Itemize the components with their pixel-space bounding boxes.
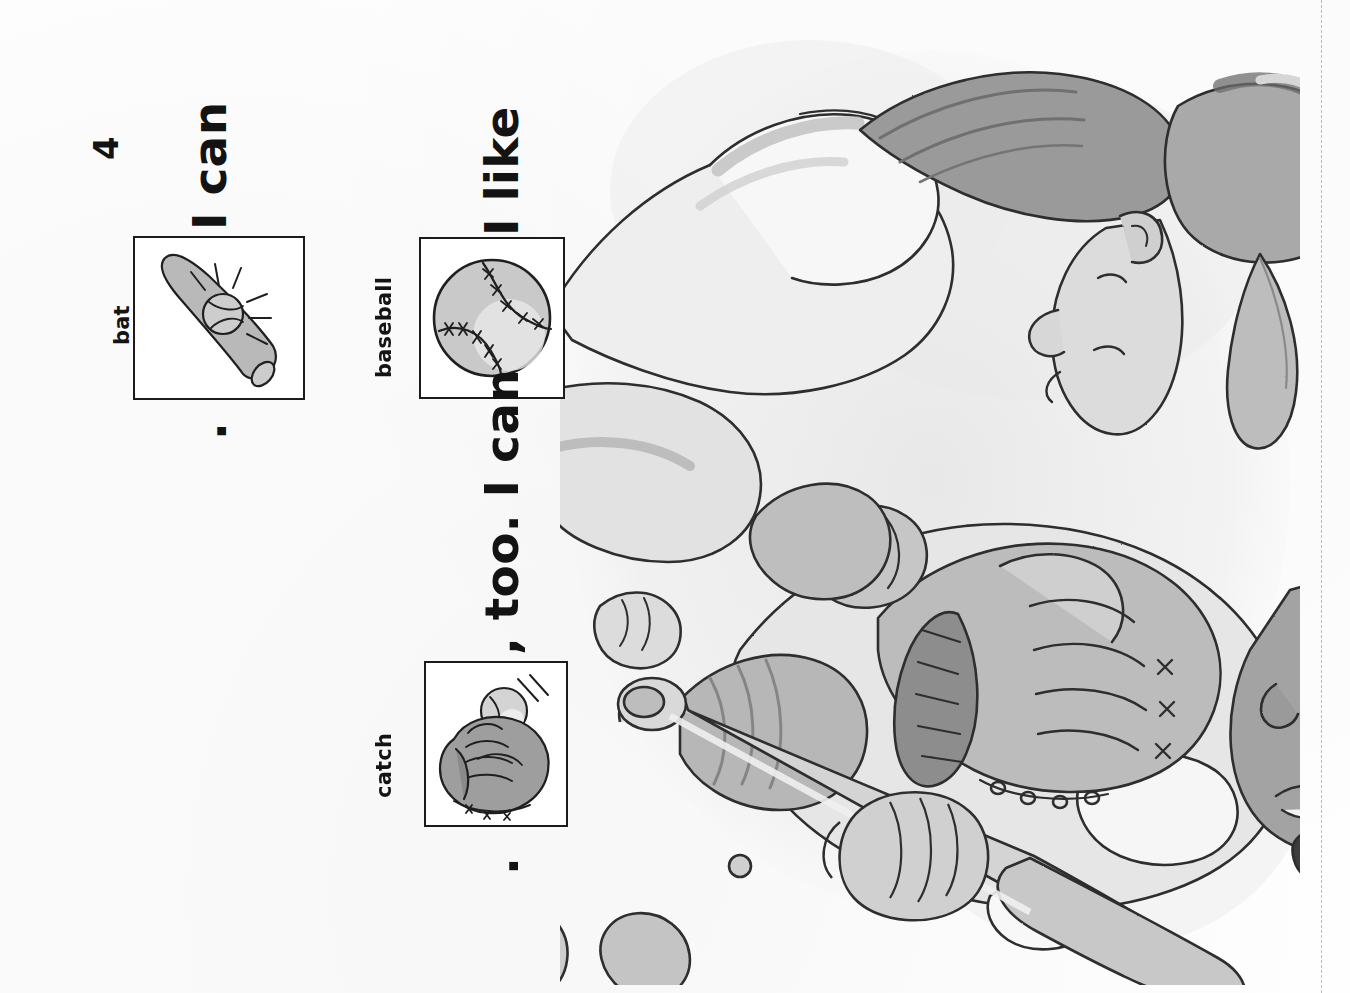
picture-label-catch-text: catch <box>372 733 396 798</box>
picture-label-bat: bat <box>110 305 134 345</box>
picture-label-baseball-text: baseball <box>372 277 396 378</box>
text-run-period-left: . <box>182 422 237 440</box>
text-run-period-right: . <box>474 857 529 875</box>
picture-label-catch: catch <box>372 733 396 798</box>
picture-box-bat[interactable] <box>133 236 305 400</box>
baseball-icon <box>434 260 551 376</box>
picture-label-baseball: baseball <box>372 277 396 378</box>
sentence-1-text-i-like: I like <box>478 106 525 236</box>
sentence-1-period: . <box>478 857 525 875</box>
book-page: 4 I can ba <box>0 0 1350 993</box>
page-number-text: 4 <box>86 136 126 160</box>
page-number: 4 <box>86 136 126 160</box>
glove-catch-icon <box>440 675 549 820</box>
text-run-i-can-left: I can <box>182 102 237 230</box>
sentence-2-period: . <box>186 422 233 440</box>
baseball-bat-icon <box>162 255 279 391</box>
baseball-bat <box>560 903 1030 985</box>
illustration-two-children-playing-baseball <box>560 10 1300 985</box>
text-run-i-like: I like <box>474 106 529 236</box>
dashed-trim-guide <box>1321 0 1322 993</box>
sentence-1-text-too-i-can: , too. I can <box>478 369 525 655</box>
text-run-comma-too-i-can: , too. I can <box>474 369 529 655</box>
picture-label-bat-text: bat <box>110 305 134 345</box>
picture-box-catch[interactable] <box>424 661 568 827</box>
sentence-2-text-i-can: I can <box>186 102 233 230</box>
